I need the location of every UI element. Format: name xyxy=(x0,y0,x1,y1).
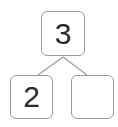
whole-value: 3 xyxy=(55,19,72,49)
whole-box: 3 xyxy=(41,11,85,56)
part-box-left: 2 xyxy=(10,75,53,119)
part-box-right-empty[interactable] xyxy=(71,75,114,119)
part-left-value: 2 xyxy=(23,82,40,112)
connector-right xyxy=(63,57,87,75)
connector-left xyxy=(38,57,63,75)
